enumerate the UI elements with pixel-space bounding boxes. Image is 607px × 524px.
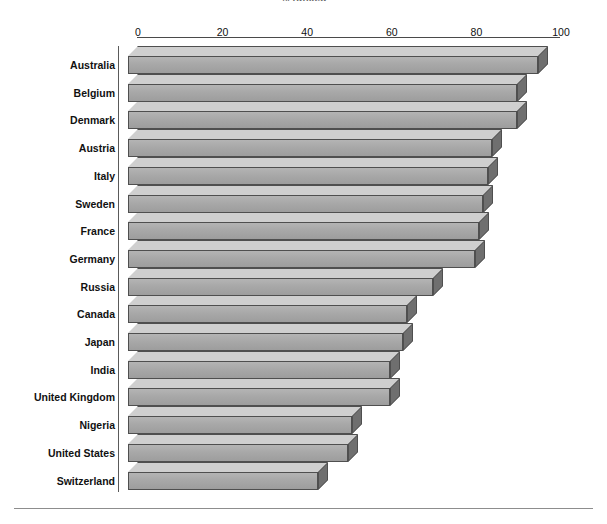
category-label-italy: Italy [94,170,115,182]
bar-denmark [128,101,517,119]
bar-front-face [128,222,479,240]
bar-top-face [128,212,489,222]
bar-top-face [128,101,527,111]
bar-top-face [128,378,400,388]
x-axis-line [137,37,560,38]
bar-france [128,212,479,230]
bar-top-face [128,129,502,139]
bar-germany [128,240,475,258]
bar-united-kingdom [128,378,390,396]
bar-switzerland [128,462,318,480]
bar-nigeria [128,406,352,424]
category-label-denmark: Denmark [70,114,115,126]
bar-front-face [128,250,475,268]
bar-front-face [128,56,538,74]
category-label-united-states: United States [48,447,115,459]
category-label-japan: Japan [85,336,115,348]
bar-front-face [128,305,407,323]
bar-top-face [128,351,400,361]
bar-chart-plot-area: 020406080100 AustraliaBelgiumDenmarkAust… [0,0,607,524]
category-label-germany: Germany [69,253,115,265]
x-axis-tick-100: 100 [552,26,570,38]
x-axis-tick-60: 60 [386,26,398,38]
category-label-india: India [90,364,115,376]
bar-top-face [128,185,493,195]
bar-top-face [128,434,358,444]
bar-india [128,351,390,369]
bar-front-face [128,388,390,406]
bar-top-face [128,295,417,305]
category-label-belgium: Belgium [74,87,115,99]
bar-front-face [128,139,492,157]
bar-russia [128,268,433,286]
bar-top-face [128,268,443,278]
bar-top-face [128,74,527,84]
bar-front-face [128,333,403,351]
bar-front-face [128,472,318,490]
category-label-australia: Australia [70,59,115,71]
bar-front-face [128,361,390,379]
bar-top-face [128,240,485,250]
bar-front-face [128,444,348,462]
bar-sweden [128,185,483,203]
category-label-russia: Russia [81,281,115,293]
bar-front-face [128,167,488,185]
bar-top-face [128,46,548,56]
bar-canada [128,295,407,313]
category-label-sweden: Sweden [75,198,115,210]
bar-front-face [128,278,433,296]
bar-top-face [128,157,498,167]
bar-front-face [128,195,483,213]
category-label-switzerland: Switzerland [57,475,115,487]
bar-front-face [128,416,352,434]
bar-australia [128,46,538,64]
x-axis-tick-80: 80 [471,26,483,38]
bar-japan [128,323,403,341]
category-label-austria: Austria [79,142,115,154]
x-axis-tick-0: 0 [135,26,141,38]
bar-top-face [128,406,362,416]
category-label-canada: Canada [77,308,115,320]
bar-top-face [128,462,328,472]
bar-united-states [128,434,348,452]
bar-austria [128,129,492,147]
footer-divider [14,508,593,509]
bar-italy [128,157,488,175]
x-axis-tick-20: 20 [217,26,229,38]
bar-top-face [128,323,413,333]
bar-belgium [128,74,517,92]
category-label-france: France [81,225,115,237]
bar-front-face [128,84,517,102]
category-label-united-kingdom: United Kingdom [34,391,115,403]
category-label-nigeria: Nigeria [79,419,115,431]
bar-front-face [128,111,517,129]
x-axis-tick-40: 40 [301,26,313,38]
